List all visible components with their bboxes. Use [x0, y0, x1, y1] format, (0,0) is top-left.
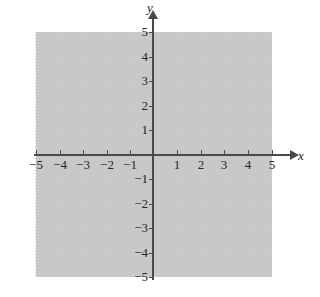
y-axis-tick	[149, 253, 154, 254]
grid-line-horizontal	[36, 202, 272, 203]
y-axis-tick-label: 1	[126, 123, 148, 137]
grid-line-horizontal	[36, 226, 272, 227]
grid-line-horizontal	[36, 131, 272, 132]
x-axis-tick-label: −2	[98, 158, 116, 172]
y-axis-tick	[149, 228, 154, 229]
y-axis-tick	[149, 81, 154, 82]
x-axis-tick-label: −1	[121, 158, 139, 172]
y-axis-tick	[149, 179, 154, 180]
y-axis-tick-label: −1	[126, 172, 148, 186]
y-axis-tick	[149, 277, 154, 278]
x-axis-tick-label: 3	[215, 158, 233, 172]
x-axis-tick-label: −3	[74, 158, 92, 172]
y-axis-tick	[149, 57, 154, 58]
x-axis-tick	[107, 150, 108, 155]
x-axis-tick-label: −4	[51, 158, 69, 172]
grid-line-horizontal	[36, 179, 272, 180]
x-axis-label: x	[298, 148, 304, 164]
x-axis-tick	[130, 150, 131, 155]
x-axis-tick	[60, 150, 61, 155]
grid-line-horizontal	[36, 61, 272, 62]
y-axis-tick	[149, 130, 154, 131]
x-axis-tick-label: 1	[168, 158, 186, 172]
x-axis-tick	[224, 150, 225, 155]
x-axis-tick	[36, 150, 37, 155]
x-axis-tick	[248, 150, 249, 155]
grid-line-horizontal	[36, 273, 272, 274]
x-axis-tick-label: 4	[239, 158, 257, 172]
x-axis-tick	[201, 150, 202, 155]
x-axis-tick	[83, 150, 84, 155]
grid-line-horizontal	[36, 37, 272, 38]
grid-line-horizontal	[36, 108, 272, 109]
x-axis-tick-label: 5	[263, 158, 281, 172]
y-axis-tick-label: 3	[126, 74, 148, 88]
x-axis-line	[34, 154, 292, 156]
x-axis-tick	[177, 150, 178, 155]
y-axis-tick-label: 4	[126, 50, 148, 64]
y-axis-tick	[149, 32, 154, 33]
y-axis-tick	[149, 204, 154, 205]
y-axis-tick-label: −3	[126, 221, 148, 235]
x-axis-tick-label: 2	[192, 158, 210, 172]
y-axis-tick	[149, 106, 154, 107]
grid-line-horizontal	[36, 84, 272, 85]
y-axis-tick-label: 2	[126, 99, 148, 113]
y-axis-tick-label: −5	[126, 270, 148, 284]
y-axis-label: y	[147, 0, 153, 16]
x-axis-tick	[272, 150, 273, 155]
y-axis-tick-label: −2	[126, 197, 148, 211]
y-axis-tick-label: 5	[126, 25, 148, 39]
coordinate-plane-figure: x y −5−4−3−2−112345 54321−1−2−3−4−5	[0, 0, 320, 297]
y-axis-tick-label: −4	[126, 246, 148, 260]
grid-line-horizontal	[36, 249, 272, 250]
x-axis-tick-label: −5	[27, 158, 45, 172]
